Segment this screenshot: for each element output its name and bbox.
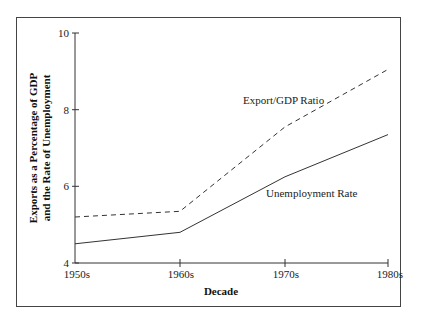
y-axis-title-line1: Exports as a Percentage of GDP	[27, 73, 39, 224]
ytick-label-10: 10	[58, 27, 70, 39]
plot-frame	[17, 18, 401, 148]
xtick-label-1980s: 1980s	[377, 268, 403, 280]
ytick-label-8: 8	[64, 104, 70, 116]
unemployment-rate-label: Unemployment Rate	[266, 187, 357, 199]
xtick-label-1960s: 1960s	[168, 268, 194, 280]
xtick-label-1970s: 1970s	[273, 268, 299, 280]
xtick-label-1950s: 1950s	[64, 268, 90, 280]
ytick-label-6: 6	[64, 180, 70, 192]
chart-border	[17, 18, 401, 148]
line-chart: 10 8 6 4 1950s 1960s 1970s 1980s Export/…	[0, 0, 430, 323]
y-axis-title-line2: and the Rate of Unemployment	[40, 74, 52, 221]
x-axis-title: Decade	[204, 285, 238, 297]
export-gdp-ratio-label: Export/GDP Ratio	[243, 94, 325, 106]
